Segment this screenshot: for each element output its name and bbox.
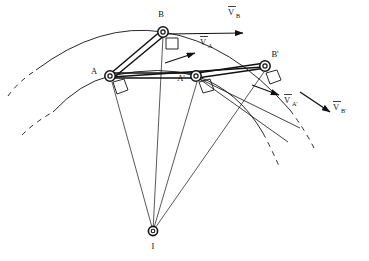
velocity-vector-labels: V B V A V A' V B': [200, 7, 346, 115]
right-angle-mark-A: [113, 79, 128, 94]
label-vector-VB: V B: [228, 7, 240, 20]
right-angle-mark-B: [166, 38, 178, 49]
arc-through-A-dash-left: [22, 112, 53, 135]
joint-I: [148, 226, 157, 235]
joint-A: [105, 71, 115, 81]
velocity-vector-VA: [165, 53, 195, 63]
link-A-B-edge-1: [110, 30, 162, 74]
label-point-A: A: [91, 66, 98, 76]
label-point-Aprime: A': [177, 73, 185, 83]
right-angle-marks: [113, 38, 281, 94]
kinematics-diagram: B A A' B' I V B V A V A': [0, 0, 369, 261]
label-vector-VBprime: V B': [333, 102, 346, 115]
right-angle-mark-Bprime: [266, 70, 281, 84]
label-point-I: I: [152, 241, 155, 251]
radius-line-I-A: [112, 82, 153, 231]
point-labels: B A A' B' I: [91, 9, 279, 251]
arc-through-B-dash-left: [8, 70, 36, 96]
label-vector-VA-main: V: [200, 37, 207, 47]
label-vector-VAprime-main: V: [284, 95, 291, 105]
joint-Bprime: [260, 61, 270, 71]
diagram-canvas: B A A' B' I V B V A V A': [0, 0, 369, 261]
label-vector-VA: V A: [200, 37, 213, 50]
arc-through-A-dash-right: [263, 133, 279, 166]
velocity-vector-VB: [167, 33, 243, 34]
joint-B: [158, 27, 168, 37]
right-angle-mark-Aprime: [199, 79, 214, 93]
label-vector-VB-sub: B: [236, 12, 240, 19]
label-point-Bprime: B': [271, 49, 279, 59]
velocity-vector-VAprime: [252, 85, 279, 95]
label-vector-VBprime-sub: B': [341, 107, 346, 114]
label-point-B: B: [158, 9, 164, 19]
label-vector-VBprime-main: V: [333, 102, 340, 112]
arc-through-B-dash-right: [290, 110, 314, 148]
label-vector-VB-main: V: [228, 7, 235, 17]
radius-line-I-Bp: [153, 72, 264, 231]
trajectory-arcs: [8, 30, 314, 166]
label-vector-VAprime-sub: A': [292, 100, 298, 107]
velocity-vector-VBprime: [300, 92, 330, 112]
label-vector-VA-sub: A: [208, 42, 213, 49]
joint-Aprime: [191, 71, 201, 81]
fan-line-Aprime-2: [198, 78, 288, 142]
